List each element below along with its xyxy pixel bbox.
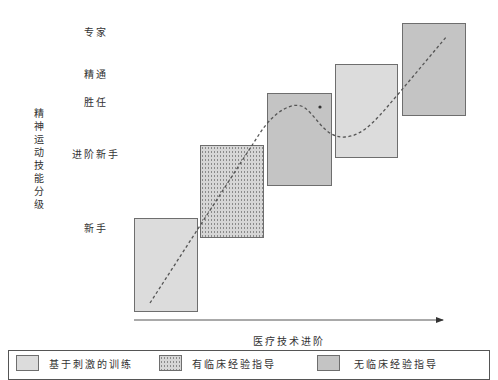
marker-dot bbox=[318, 105, 321, 108]
legend-label: 有临床经验指导 bbox=[192, 356, 276, 371]
legend-item-guided-clinical: 有临床经验指导 bbox=[159, 355, 276, 371]
legend-swatch-dotted bbox=[159, 355, 182, 371]
legend: 基于刺激的训练 有临床经验指导 无临床经验指导 bbox=[8, 350, 490, 380]
learning-curve bbox=[150, 36, 447, 303]
legend-item-unguided-clinical: 无临床经验指导 bbox=[317, 355, 438, 371]
legend-item-stimulus-training: 基于刺激的训练 bbox=[16, 355, 133, 371]
legend-swatch-dark bbox=[317, 355, 340, 371]
legend-label: 无临床经验指导 bbox=[354, 356, 438, 371]
legend-swatch-light bbox=[16, 355, 39, 371]
legend-label: 基于刺激的训练 bbox=[49, 356, 133, 371]
x-axis-title: 医疗技术进阶 bbox=[253, 333, 325, 348]
